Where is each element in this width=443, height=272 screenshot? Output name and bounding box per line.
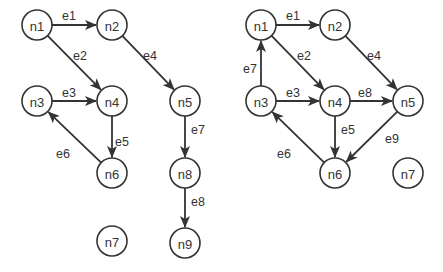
right-graph-node-n7: n7 [393,158,423,188]
node-label: n6 [328,167,342,182]
left-graph-node-n1: n1 [22,10,52,40]
left-graph-node-n3: n3 [22,86,52,116]
node-label: n5 [401,95,415,110]
edge-label: e7 [191,123,205,137]
left-graph-node-n4: n4 [97,86,127,116]
node-label: n7 [105,235,119,250]
node-label: n6 [105,167,119,182]
node-label: n5 [178,95,192,110]
right-graph-node-n2: n2 [320,10,350,40]
edge-label: e1 [62,9,76,23]
left-graph-node-n2: n2 [97,10,127,40]
right-graph-node-n1: n1 [246,10,276,40]
node-label: n8 [178,167,192,182]
node-label: n4 [105,95,119,110]
right-graph-node-n4: n4 [320,86,350,116]
right-graph-node-n5: n5 [393,86,423,116]
graph-diagram-canvas: n1n2n3n4n5n6n8n7n9n1n2n3n4n5n6n7 e1e2e3e… [0,0,443,272]
edge-label: e2 [297,49,311,63]
node-label: n3 [254,95,268,110]
right-graph-node-n3: n3 [246,86,276,116]
node-label: n4 [328,95,342,110]
edge-label: e3 [62,86,76,100]
left-graph-node-n8: n8 [170,158,200,188]
edge-label: e4 [143,49,157,63]
edge-label: e6 [56,147,70,161]
edge-label: e8 [358,86,372,100]
edge-label: e9 [385,132,399,146]
edge-label: e4 [367,49,381,63]
node-label: n1 [30,19,44,34]
node-label: n1 [254,19,268,34]
node-label: n7 [401,167,415,182]
node-label: n9 [178,237,192,252]
edge-label: e6 [277,147,291,161]
left-graph-node-n5: n5 [170,86,200,116]
edge-label: e5 [341,123,355,137]
node-label: n3 [30,95,44,110]
edge-label: e2 [73,49,87,63]
left-graph-node-n6: n6 [97,158,127,188]
node-label: n2 [105,19,119,34]
left-graph-node-n9: n9 [170,228,200,258]
left-graph-node-n7: n7 [97,226,127,256]
edge-label: e8 [191,195,205,209]
nodes-layer: n1n2n3n4n5n6n8n7n9n1n2n3n4n5n6n7 [22,10,423,258]
right-graph-node-n6: n6 [320,158,350,188]
edge-label: e1 [286,9,300,23]
edge-label: e7 [243,62,257,76]
edge-label: e5 [115,135,129,149]
edge-label: e3 [286,86,300,100]
node-label: n2 [328,19,342,34]
